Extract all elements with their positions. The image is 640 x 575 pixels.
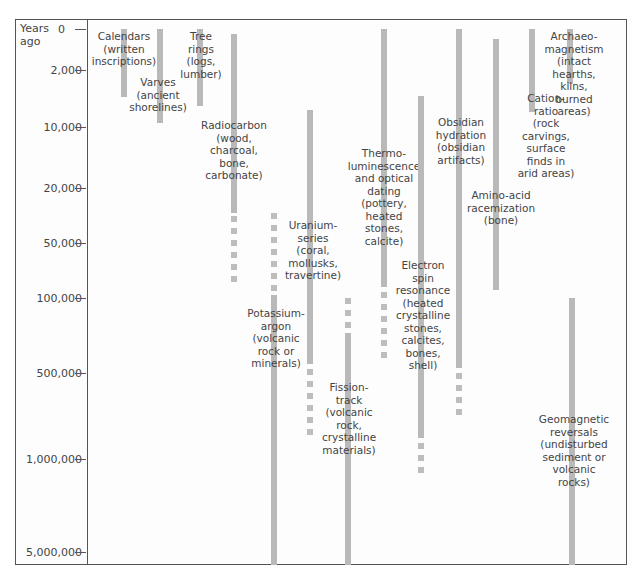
axis-divider	[87, 19, 88, 565]
extended-range-dot	[271, 249, 277, 255]
extended-range-dot	[345, 310, 351, 316]
extended-range-dot	[381, 340, 387, 346]
y-axis-title: Years ago	[20, 22, 49, 48]
method-label: Archaeo- magnetism (intact hearths, kiln…	[544, 30, 603, 118]
extended-range-dot	[231, 252, 237, 258]
y-tick-label: 1,000,000	[26, 453, 82, 466]
extended-range-dot	[381, 304, 387, 310]
method-label: Tree rings (logs, lumber)	[180, 30, 221, 80]
extended-range-dot	[271, 213, 277, 219]
extended-range-dot	[418, 455, 424, 461]
y-tick-mark	[75, 298, 86, 299]
range-bar	[493, 39, 499, 290]
y-tick-mark	[75, 552, 86, 553]
extended-range-dot	[307, 381, 313, 387]
extended-range-dot	[271, 273, 277, 279]
method-label: Uranium- series (coral, mollusks, traver…	[285, 219, 341, 282]
y-tick-mark	[75, 127, 86, 128]
extended-range-dot	[231, 228, 237, 234]
method-label: Potassium- argon (volcanic rock or miner…	[247, 307, 304, 370]
y-tick-label: 5,000,000	[26, 546, 82, 559]
method-label: Calendars (written inscriptions)	[92, 30, 156, 68]
y-tick-mark	[75, 243, 86, 244]
range-bar	[456, 29, 462, 368]
extended-range-dot	[231, 240, 237, 246]
y-tick-mark	[75, 188, 86, 189]
extended-range-dot	[456, 409, 462, 415]
extended-range-dot	[307, 417, 313, 423]
extended-range-dot	[456, 385, 462, 391]
method-label: Amino-acid racemization (bone)	[467, 189, 535, 227]
extended-range-dot	[381, 316, 387, 322]
extended-range-dot	[271, 237, 277, 243]
method-label: Geomagnetic reversals (undisturbed sedim…	[539, 413, 609, 488]
method-label: Varves (ancient shorelines)	[129, 76, 187, 114]
method-label: Fission- track (volcanic rock, crystalli…	[322, 381, 376, 456]
extended-range-dot	[456, 373, 462, 379]
y-tick-mark	[75, 459, 86, 460]
extended-range-dot	[271, 225, 277, 231]
extended-range-dot	[381, 352, 387, 358]
extended-range-dot	[456, 397, 462, 403]
method-label: Obsidian hydration (obsidian artifacts)	[436, 116, 486, 166]
extended-range-dot	[307, 429, 313, 435]
y-tick-label: 0	[58, 23, 65, 36]
method-label: Radiocarbon (wood, charcoal, bone, carbo…	[201, 119, 267, 182]
extended-range-dot	[345, 322, 351, 328]
extended-range-dot	[271, 285, 277, 291]
extended-range-dot	[307, 405, 313, 411]
extended-range-dot	[381, 292, 387, 298]
method-label: Electron spin resonance (heated crystall…	[396, 259, 450, 372]
extended-range-dot	[271, 261, 277, 267]
extended-range-dot	[231, 276, 237, 282]
y-tick-mark	[75, 29, 86, 30]
extended-range-dot	[231, 264, 237, 270]
extended-range-dot	[381, 328, 387, 334]
y-tick-mark	[75, 70, 86, 71]
extended-range-dot	[345, 298, 351, 304]
extended-range-dot	[231, 216, 237, 222]
y-tick-mark	[75, 373, 86, 374]
extended-range-dot	[418, 467, 424, 473]
extended-range-dot	[307, 393, 313, 399]
extended-range-dot	[307, 369, 313, 375]
extended-range-dot	[418, 443, 424, 449]
method-label: Thermo- luminescence and optical dating …	[348, 147, 420, 247]
